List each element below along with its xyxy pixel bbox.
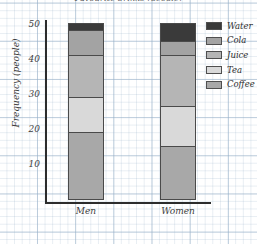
- legend-item-juice[interactable]: Juice: [206, 48, 257, 63]
- bar-segment-juice[interactable]: [68, 55, 104, 98]
- bar-women[interactable]: [160, 24, 196, 200]
- bar-segment-cola[interactable]: [160, 41, 196, 56]
- bar-segment-tea[interactable]: [68, 97, 104, 133]
- y-tick-label-50: 50: [14, 20, 40, 29]
- chart-title: Favourite drinks (people): [0, 0, 257, 1]
- legend-label-juice: Juice: [227, 51, 248, 60]
- legend-label-cola: Cola: [227, 36, 246, 45]
- bar-men[interactable]: [68, 24, 104, 200]
- y-tick-label-10: 10: [14, 160, 40, 169]
- x-tick-label-women: Women: [143, 206, 213, 216]
- legend-item-cola[interactable]: Cola: [206, 34, 257, 49]
- legend-item-water[interactable]: Water: [206, 19, 257, 34]
- y-tick-label-30: 30: [14, 90, 40, 99]
- legend-swatch-coffee: [206, 81, 222, 89]
- plot-area: [46, 24, 206, 200]
- bar-segment-tea[interactable]: [160, 106, 196, 147]
- legend-label-water: Water: [227, 22, 253, 31]
- x-axis-line: [45, 202, 211, 204]
- legend-swatch-juice: [206, 51, 222, 59]
- legend-item-tea[interactable]: Tea: [206, 63, 257, 78]
- chart-legend: WaterColaJuiceTeaCoffee: [206, 19, 257, 92]
- legend-item-coffee[interactable]: Coffee: [206, 77, 257, 92]
- bar-segment-water[interactable]: [160, 23, 196, 42]
- legend-label-coffee: Coffee: [227, 80, 255, 89]
- bar-segment-coffee[interactable]: [160, 146, 196, 200]
- y-tick-label-20: 20: [14, 125, 40, 134]
- bar-segment-juice[interactable]: [160, 55, 196, 107]
- y-tick-label-40: 40: [14, 55, 40, 64]
- legend-swatch-cola: [206, 37, 222, 45]
- legend-label-tea: Tea: [227, 66, 242, 75]
- x-tick-label-men: Men: [51, 206, 121, 216]
- legend-swatch-water: [206, 22, 222, 30]
- stacked-bar-chart: Favourite drinks (people) Frequency (peo…: [0, 0, 257, 244]
- legend-swatch-tea: [206, 66, 222, 74]
- bar-segment-coffee[interactable]: [68, 132, 104, 200]
- bar-segment-water[interactable]: [68, 23, 104, 31]
- bar-segment-cola[interactable]: [68, 30, 104, 56]
